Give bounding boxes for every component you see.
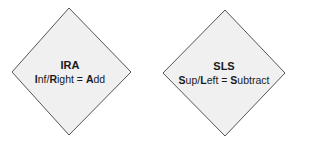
ira-node-text: IRA Inf/Right = Add (20, 58, 120, 86)
sls-node-text: SLS Sup/Left = Subtract (166, 59, 282, 87)
sls-rule: Sup/Left = Subtract (166, 73, 282, 87)
sls-title: SLS (166, 59, 282, 73)
ira-rule: Inf/Right = Add (20, 72, 120, 86)
ira-title: IRA (20, 58, 120, 72)
